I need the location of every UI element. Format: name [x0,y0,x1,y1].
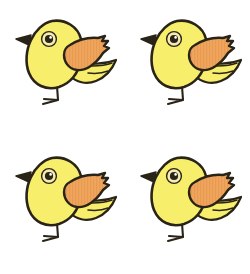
bird-figure-top-right: top-right [125,0,250,137]
eye-highlight [49,173,52,176]
eye-pupil-icon [45,172,53,180]
eye-pupil-icon [45,35,53,43]
bird-eye-group [42,32,57,47]
eye-pupil-icon [170,172,178,180]
illustration-canvas: Four Yellow Cartoon Birds A 2 by 2 grid … [0,0,250,274]
bird-eye-group [42,169,57,184]
eye-pupil-icon [170,35,178,43]
bird-illustration [0,137,125,274]
beak-icon [141,172,156,182]
bird-figure-bottom-left: bottom-left [0,137,125,274]
bird-eye-group [167,169,182,184]
bird-figure-top-left: top-left [0,0,125,137]
bird-illustration [125,0,250,137]
beak-icon [16,172,31,182]
beak-icon [16,35,31,45]
eye-highlight [174,173,177,176]
eye-highlight [174,36,177,39]
bird-eye-group [167,32,182,47]
bird-illustration [125,137,250,274]
beak-icon [141,35,156,45]
bird-illustration [0,0,125,137]
bird-grid: top-left [0,0,250,274]
eye-highlight [49,36,52,39]
bird-figure-bottom-right: bottom-right [125,137,250,274]
